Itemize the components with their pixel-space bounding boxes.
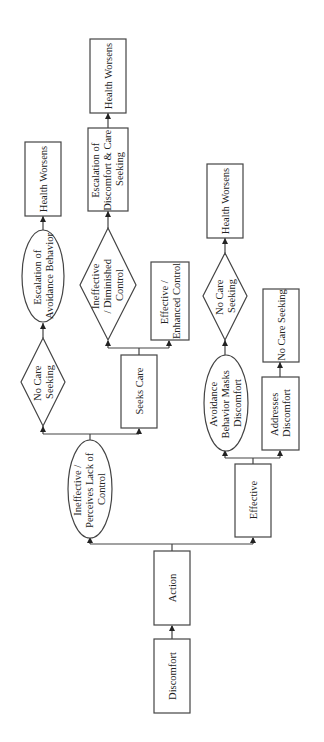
node-health-worsens-middle: Health Worsens bbox=[90, 39, 126, 113]
svg-text:No Care Seeking: No Care Seeking bbox=[32, 363, 55, 401]
node-label: Health Worsens bbox=[220, 168, 231, 234]
node-label: Perceives Lack of bbox=[84, 452, 95, 528]
node-effective-enhanced: Effective / Enhanced Control bbox=[151, 262, 189, 340]
node-label: Seeking bbox=[44, 364, 55, 399]
node-label: Control bbox=[114, 269, 125, 301]
node-label: Escalation of bbox=[32, 249, 43, 305]
arrowhead-icon bbox=[250, 537, 256, 543]
node-label: No Care bbox=[214, 279, 225, 315]
node-label: Ineffective bbox=[90, 263, 101, 309]
svg-text:Health Worsens: Health Worsens bbox=[38, 146, 49, 212]
node-no-care-seeking-box: No Care Seeking bbox=[263, 288, 299, 362]
svg-text:Effective: Effective bbox=[248, 481, 259, 520]
node-label: Avoidance Behavior bbox=[44, 233, 55, 319]
node-ineffective-diminished: Ineffective / Diminished Control bbox=[80, 228, 136, 340]
node-health-worsens-left: Health Worsens bbox=[25, 142, 61, 216]
arrowhead-icon bbox=[136, 428, 142, 434]
node-label: Effective bbox=[248, 481, 259, 520]
node-label: No Care bbox=[32, 365, 43, 401]
arrowhead-icon bbox=[169, 625, 175, 631]
node-label: / Diminished bbox=[102, 258, 113, 313]
svg-text:Seeks Care: Seeks Care bbox=[134, 367, 145, 414]
node-label: Enhanced Control bbox=[171, 263, 182, 339]
svg-text:Health Worsens: Health Worsens bbox=[103, 43, 114, 109]
node-label: Discomfort bbox=[281, 389, 292, 437]
arrowhead-icon bbox=[277, 450, 283, 456]
node-action: Action bbox=[154, 551, 190, 625]
node-label: Ineffective / bbox=[72, 465, 83, 516]
arrowhead-icon bbox=[40, 216, 46, 222]
node-seeks-care: Seeks Care bbox=[121, 355, 157, 428]
node-no-care-seeking-left: No Care Seeking bbox=[21, 338, 65, 426]
flowchart: Discomfort Action Ineffective / Perceive… bbox=[0, 0, 324, 742]
node-label: Effective / bbox=[159, 280, 170, 324]
node-label: Action bbox=[167, 573, 178, 602]
node-health-worsens-right: Health Worsens bbox=[207, 164, 243, 238]
node-label: Discomfort & Care bbox=[102, 129, 113, 210]
svg-text:Discomfort: Discomfort bbox=[167, 652, 178, 700]
node-label: Health Worsens bbox=[38, 146, 49, 212]
svg-text:Health Worsens: Health Worsens bbox=[220, 168, 231, 234]
node-avoidance-masks: Avoidance Behavior Masks Discomfort bbox=[204, 355, 248, 451]
node-discomfort: Discomfort bbox=[154, 639, 190, 713]
node-label: Addresses bbox=[269, 393, 280, 436]
svg-text:Addresses Discomfort: Addresses Discomfort bbox=[269, 389, 292, 437]
arrowhead-icon bbox=[277, 362, 283, 368]
node-label: No Care Seeking bbox=[276, 288, 287, 360]
node-label: Behavior Masks bbox=[220, 370, 231, 439]
node-escalation-discomfort: Escalation of Discomfort & Care Seeking bbox=[88, 127, 128, 211]
arrowhead-icon bbox=[105, 113, 111, 119]
node-label: Health Worsens bbox=[103, 43, 114, 109]
node-addresses-discomfort: Addresses Discomfort bbox=[262, 377, 299, 450]
node-label: Seeks Care bbox=[134, 367, 145, 414]
arrowhead-icon bbox=[166, 340, 172, 346]
arrowhead-icon bbox=[40, 323, 46, 329]
node-label: Control bbox=[96, 473, 107, 505]
node-label: Discomfort bbox=[232, 379, 243, 427]
node-no-care-seeking-right: No Care Seeking bbox=[203, 253, 247, 340]
node-label: Seeking bbox=[226, 278, 237, 313]
node-label: Avoidance bbox=[208, 382, 219, 427]
svg-text:Action: Action bbox=[167, 573, 178, 602]
node-effective: Effective bbox=[235, 464, 271, 537]
node-label: Discomfort bbox=[167, 652, 178, 700]
arrowhead-icon bbox=[222, 238, 228, 244]
svg-text:No Care Seeking: No Care Seeking bbox=[214, 277, 237, 315]
node-label: Seeking bbox=[114, 151, 125, 186]
node-ineffective-perceives: Ineffective / Perceives Lack of Control bbox=[68, 440, 112, 538]
svg-text:No Care Seeking: No Care Seeking bbox=[276, 288, 287, 360]
arrowhead-icon bbox=[105, 211, 111, 217]
node-label: Escalation of bbox=[90, 142, 101, 198]
node-escalation-avoidance: Escalation of Avoidance Behavior bbox=[22, 230, 64, 322]
